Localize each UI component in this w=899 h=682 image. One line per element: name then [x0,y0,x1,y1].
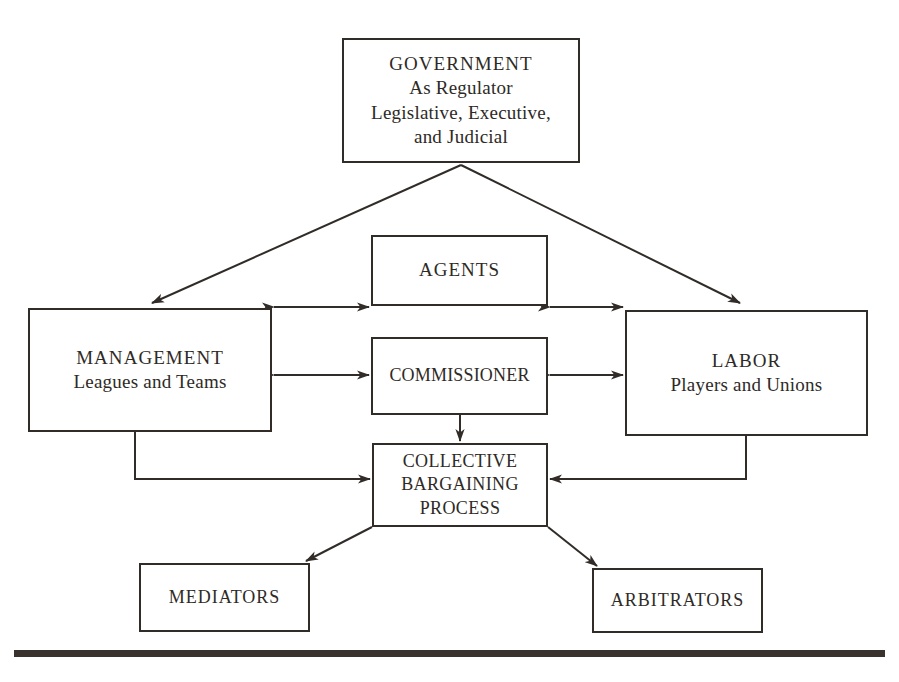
connector-management-cbp [135,432,370,479]
node-government-line4: and Judicial [414,125,508,149]
connector-cbp-arbitrators [548,527,597,566]
node-cbp-line1: COLLECTIVE [403,450,518,473]
node-government[interactable]: GOVERNMENT As Regulator Legislative, Exe… [342,38,580,163]
node-government-title: GOVERNMENT [389,52,532,76]
node-arbitrators-title: ARBITRATORS [611,589,745,612]
node-management-title: MANAGEMENT [76,346,224,370]
node-commissioner[interactable]: COMMISSIONER [371,337,548,415]
node-labor-line2: Players and Unions [671,373,823,397]
node-mediators-title: MEDIATORS [169,586,281,609]
node-labor-title: LABOR [712,349,782,373]
node-commissioner-title: COMMISSIONER [389,364,529,387]
bottom-rule-divider [14,650,885,657]
connector-cbp-mediators [306,527,372,561]
node-government-line2: As Regulator [409,76,513,100]
node-government-line3: Legislative, Executive, [371,101,551,125]
node-mediators[interactable]: MEDIATORS [139,563,310,632]
diagram-canvas: GOVERNMENT As Regulator Legislative, Exe… [0,0,899,682]
node-arbitrators[interactable]: ARBITRATORS [592,568,763,633]
node-cbp-line3: PROCESS [420,497,501,520]
node-management[interactable]: MANAGEMENT Leagues and Teams [28,308,272,432]
node-agents[interactable]: AGENTS [371,235,548,306]
node-collective-bargaining-process[interactable]: COLLECTIVE BARGAINING PROCESS [372,443,548,527]
node-management-line2: Leagues and Teams [73,370,226,394]
connector-labor-cbp [550,436,746,479]
node-agents-title: AGENTS [419,258,500,282]
node-cbp-line2: BARGAINING [401,473,519,496]
node-labor[interactable]: LABOR Players and Unions [625,310,868,436]
